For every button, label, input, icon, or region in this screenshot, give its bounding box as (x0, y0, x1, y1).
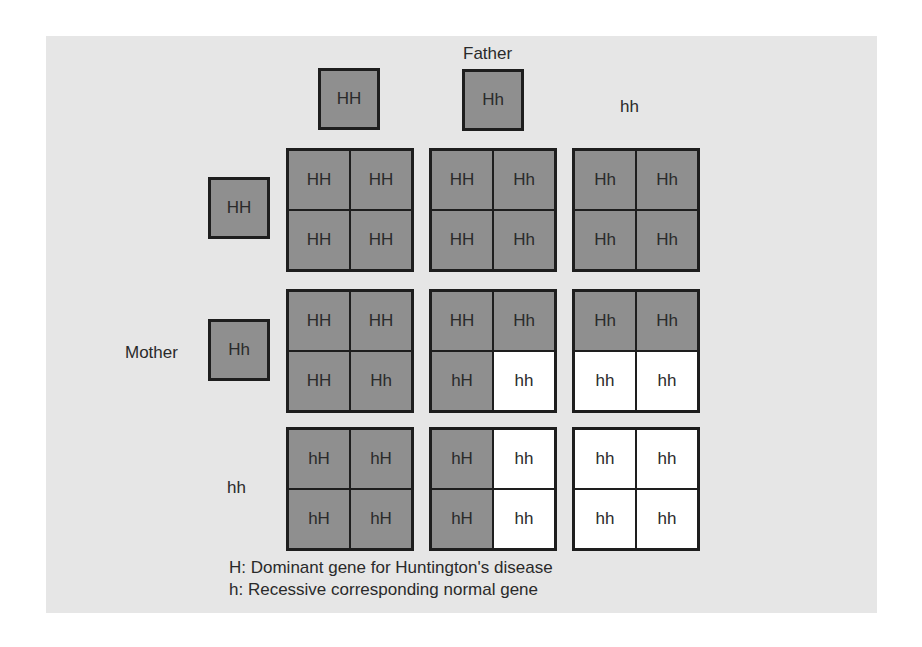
offspring-cell-affected: Hh (637, 211, 697, 269)
offspring-cell-affected: HH (432, 211, 492, 269)
offspring-cell-affected: Hh (637, 292, 697, 350)
offspring-cell-affected: HH (351, 211, 411, 269)
offspring-cell-affected: HH (289, 292, 349, 350)
legend-recessive: h: Recessive corresponding normal gene (229, 579, 553, 601)
mother-genotype-Hh: Hh (208, 319, 270, 381)
father-genotype-hh: hh (620, 97, 639, 117)
father-genotype-HH: HH (318, 68, 380, 130)
offspring-cell-affected: HH (289, 352, 349, 410)
offspring-cell-affected: hH (351, 490, 411, 548)
offspring-cell-affected: hH (351, 430, 411, 488)
offspring-cell-affected: hH (432, 352, 492, 410)
offspring-cell-normal: hh (494, 352, 554, 410)
offspring-cell-affected: hH (289, 430, 349, 488)
punnett-square: HHHHHHHH (286, 148, 414, 272)
offspring-cell-normal: hh (494, 490, 554, 548)
offspring-cell-normal: hh (637, 352, 697, 410)
offspring-cell-affected: HH (289, 211, 349, 269)
punnett-square: HHHhhHhh (429, 289, 557, 413)
offspring-cell-affected: Hh (575, 151, 635, 209)
offspring-cell-affected: HH (289, 151, 349, 209)
punnett-square: HhHhhhhh (572, 289, 700, 413)
offspring-cell-normal: hh (494, 430, 554, 488)
mother-genotype-hh: hh (227, 478, 246, 498)
offspring-cell-affected: Hh (494, 151, 554, 209)
offspring-cell-affected: Hh (351, 352, 411, 410)
offspring-cell-affected: HH (351, 151, 411, 209)
offspring-cell-normal: hh (575, 352, 635, 410)
punnett-square: hHhhhHhh (429, 427, 557, 551)
offspring-cell-affected: Hh (575, 211, 635, 269)
offspring-cell-affected: Hh (637, 151, 697, 209)
offspring-cell-normal: hh (575, 490, 635, 548)
father-genotype-Hh: Hh (462, 69, 524, 131)
offspring-cell-affected: HH (432, 151, 492, 209)
offspring-cell-affected: Hh (494, 292, 554, 350)
offspring-cell-affected: Hh (494, 211, 554, 269)
offspring-cell-affected: hH (432, 490, 492, 548)
mother-label: Mother (125, 343, 178, 363)
legend-dominant: H: Dominant gene for Huntington's diseas… (229, 557, 553, 579)
legend: H: Dominant gene for Huntington's diseas… (229, 557, 553, 601)
offspring-cell-affected: HH (432, 292, 492, 350)
offspring-cell-normal: hh (637, 430, 697, 488)
punnett-square: hHhHhHhH (286, 427, 414, 551)
punnett-square: HhHhHhHh (572, 148, 700, 272)
father-label: Father (463, 44, 512, 64)
offspring-cell-normal: hh (575, 430, 635, 488)
mother-genotype-HH: HH (208, 177, 270, 239)
punnett-square: hhhhhhhh (572, 427, 700, 551)
offspring-cell-affected: hH (432, 430, 492, 488)
punnett-square: HHHhHHHh (429, 148, 557, 272)
offspring-cell-affected: hH (289, 490, 349, 548)
punnett-square: HHHHHHHh (286, 289, 414, 413)
offspring-cell-normal: hh (637, 490, 697, 548)
offspring-cell-affected: HH (351, 292, 411, 350)
offspring-cell-affected: Hh (575, 292, 635, 350)
